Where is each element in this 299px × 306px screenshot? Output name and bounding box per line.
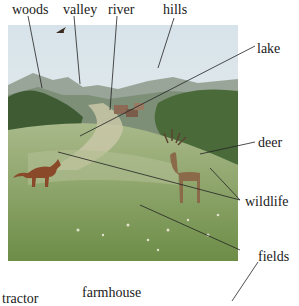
- label-lake: lake: [257, 42, 280, 56]
- label-river: river: [108, 3, 134, 17]
- label-farmhouse: farmhouse: [82, 286, 141, 300]
- label-fields: fields: [258, 250, 289, 264]
- label-tractor: tractor: [2, 292, 39, 306]
- label-deer: deer: [258, 136, 282, 150]
- label-valley: valley: [63, 3, 97, 17]
- label-woods: woods: [12, 3, 49, 17]
- label-hills: hills: [163, 3, 187, 17]
- label-wildlife: wildlife: [245, 195, 289, 209]
